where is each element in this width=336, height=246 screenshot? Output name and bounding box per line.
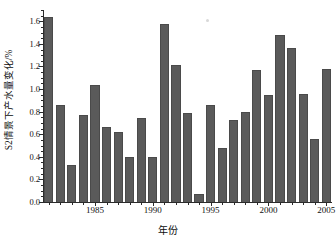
y-minor-tick	[41, 61, 44, 62]
x-tick-label: 2005	[317, 205, 335, 215]
bar	[252, 70, 261, 202]
y-major-tick	[39, 179, 43, 180]
y-minor-tick	[41, 117, 44, 118]
y-minor-tick	[41, 106, 44, 107]
y-major-tick	[39, 157, 43, 158]
bar	[90, 85, 99, 202]
y-minor-tick	[41, 16, 44, 17]
y-minor-tick	[41, 10, 44, 11]
y-major-tick	[39, 134, 43, 135]
y-minor-tick	[41, 33, 44, 34]
y-minor-tick	[41, 168, 44, 169]
x-axis-title: 年份	[0, 222, 336, 237]
y-minor-tick	[41, 146, 44, 147]
x-tick-label: 1990	[144, 205, 162, 215]
y-axis-tick-labels: 0.00.20.40.60.81.01.21.41.6	[14, 0, 42, 246]
y-minor-tick	[41, 129, 44, 130]
x-tick-label: 1985	[86, 205, 104, 215]
x-tick-label: 2000	[259, 205, 277, 215]
y-major-tick	[39, 44, 43, 45]
bar	[67, 165, 76, 202]
y-major-tick	[39, 21, 43, 22]
bar	[160, 24, 169, 202]
y-minor-tick	[41, 95, 44, 96]
bar	[218, 148, 227, 202]
y-minor-tick	[41, 78, 44, 79]
bar	[264, 95, 273, 202]
bar	[299, 94, 308, 202]
y-minor-tick	[41, 151, 44, 152]
y-minor-tick	[41, 55, 44, 56]
bar	[229, 120, 238, 202]
y-minor-tick	[41, 38, 44, 39]
y-minor-tick	[41, 100, 44, 101]
bar	[44, 17, 53, 202]
plot-area	[43, 10, 332, 203]
bar	[206, 105, 215, 202]
bar	[310, 139, 319, 202]
bar	[137, 118, 146, 202]
x-tick-label: 1995	[202, 205, 220, 215]
bar	[322, 69, 331, 202]
y-minor-tick	[41, 174, 44, 175]
bar	[183, 113, 192, 202]
bar	[148, 157, 157, 202]
y-minor-tick	[41, 27, 44, 28]
chart-figure: S2情景下产水量变化/% 0.00.20.40.60.81.01.21.41.6…	[0, 0, 336, 246]
bar	[241, 112, 250, 202]
scan-speck	[206, 19, 209, 22]
bar	[125, 157, 134, 202]
bar	[194, 194, 203, 202]
y-major-tick	[39, 202, 43, 203]
y-minor-tick	[41, 83, 44, 84]
bar	[114, 132, 123, 202]
y-axis-title-text: S2情景下产水量变化/%	[1, 50, 15, 151]
y-major-tick	[39, 89, 43, 90]
y-minor-tick	[41, 191, 44, 192]
y-major-tick	[39, 112, 43, 113]
y-minor-tick	[41, 50, 44, 51]
bar	[171, 65, 180, 202]
y-minor-tick	[41, 162, 44, 163]
bar	[56, 105, 65, 202]
y-minor-tick	[41, 196, 44, 197]
y-minor-tick	[41, 185, 44, 186]
x-axis-tick-labels: 19851990199520002005	[43, 205, 336, 219]
y-minor-tick	[41, 123, 44, 124]
bar	[287, 48, 296, 202]
y-major-tick	[39, 66, 43, 67]
bar	[79, 115, 88, 202]
y-minor-tick	[41, 140, 44, 141]
x-axis-title-text: 年份	[158, 222, 178, 237]
bar	[102, 127, 111, 202]
bar	[275, 35, 284, 202]
y-minor-tick	[41, 72, 44, 73]
